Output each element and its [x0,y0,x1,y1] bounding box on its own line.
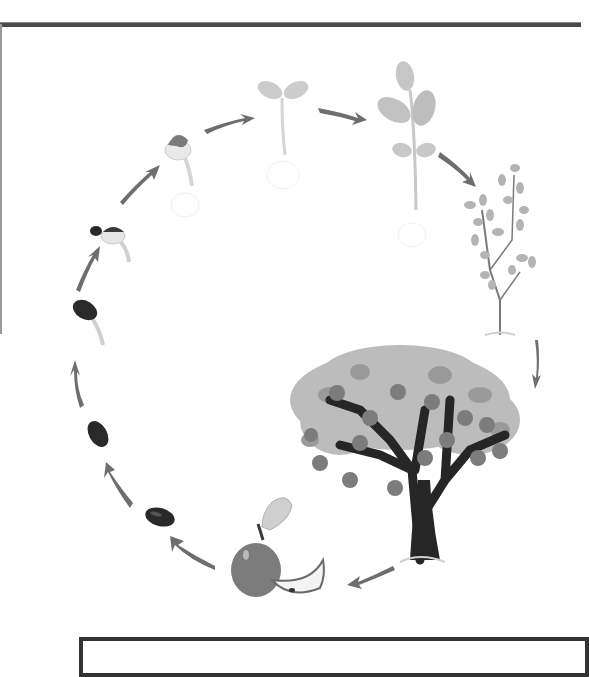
seed-icon [83,417,113,450]
sapling-icon [464,164,536,335]
answer-box[interactable] [79,637,589,677]
arrow-icon [318,108,367,125]
arrow-icon [204,114,255,134]
germinating-seed-icon [69,296,103,345]
cycle-arrows [70,108,541,589]
seed-icon [143,504,177,529]
young-plant-icon [373,60,439,247]
seedling-icon [255,77,311,189]
apple-tree-icon [290,345,520,562]
apple-icon [231,498,324,597]
arrow-icon [70,360,84,408]
arrow-icon [120,165,160,205]
arrow-icon [347,566,395,589]
seedling-with-coat-icon [165,135,199,217]
arrow-icon [438,152,476,187]
arrow-icon [170,536,215,570]
arrow-icon [532,340,541,389]
arrow-icon [104,462,133,508]
arrow-icon [76,246,100,292]
